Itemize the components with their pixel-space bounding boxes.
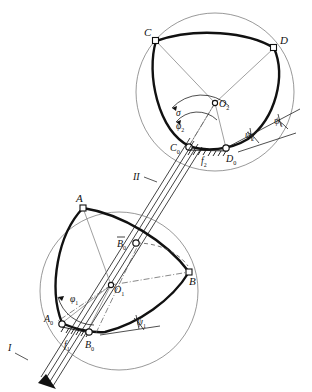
label-angle-psi1-lower: ψ1 xyxy=(137,317,146,329)
upper-curved-triangle xyxy=(153,33,279,150)
vertex-marker-A xyxy=(80,205,86,211)
upper-outer-circle xyxy=(136,13,294,171)
label-center-O1: O1 xyxy=(114,284,124,297)
mechanism-diagram: C D C0 D0 O2 σ φ2 ψ1 ψ2 f2 II xyxy=(0,0,312,392)
label-link-I: I xyxy=(7,342,12,353)
coupler-rod xyxy=(38,138,202,389)
upper-mechanism: C D C0 D0 O2 σ φ2 ψ1 ψ2 f2 xyxy=(136,13,300,171)
vertex-marker-B0 xyxy=(86,329,92,335)
upper-angle-arc-phi2 xyxy=(176,112,217,122)
label-vertex-D: D xyxy=(279,34,288,46)
label-vertex-A0: A0 xyxy=(43,313,53,326)
label-vertex-B0bar: B0 xyxy=(117,237,126,251)
label-vertex-C0: C0 xyxy=(170,142,180,155)
label-vertex-D0: D0 xyxy=(225,153,236,166)
label-vertex-B: B xyxy=(189,275,196,287)
leader-line-I xyxy=(15,353,28,360)
lower-axis-dashdot-A0 xyxy=(58,285,111,321)
diagram-canvas: C D C0 D0 O2 σ φ2 ψ1 ψ2 f2 II xyxy=(0,0,312,392)
vertex-marker-A0 xyxy=(59,321,65,327)
lower-mechanism: A B A0 B0 B0 O1 φ1 ψ1 f1 xyxy=(40,192,198,370)
label-vertex-B0: B0 xyxy=(85,339,94,352)
vertex-marker-D0 xyxy=(223,145,229,151)
label-angle-sigma: σ xyxy=(176,108,181,118)
pivot-marker-O1 xyxy=(108,282,113,287)
label-angle-psi2-upper: ψ2 xyxy=(245,130,254,142)
label-ground-f2: f2 xyxy=(201,156,207,168)
label-vertex-A: A xyxy=(75,192,83,204)
vertex-marker-C xyxy=(153,38,159,44)
label-center-O2: O2 xyxy=(219,98,229,111)
svg-text:B0: B0 xyxy=(117,238,126,251)
label-angle-phi2: φ2 xyxy=(176,121,184,133)
leader-line-II xyxy=(144,177,157,182)
label-angle-psi1-upper: ψ1 xyxy=(274,116,283,128)
vertex-marker-D xyxy=(271,45,277,51)
pivot-marker-O2 xyxy=(212,100,217,105)
label-vertex-C: C xyxy=(144,26,152,38)
vertex-marker-B0bar xyxy=(133,240,139,246)
label-link-II: II xyxy=(132,171,140,182)
label-angle-phi1: φ1 xyxy=(70,294,78,306)
lower-curved-triangle xyxy=(56,208,189,332)
